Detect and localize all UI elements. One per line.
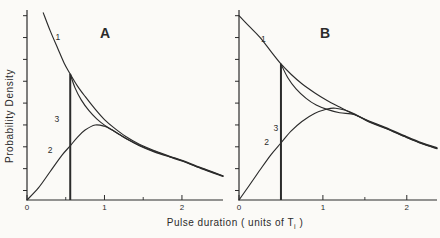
- curve-1-line: [239, 16, 437, 148]
- curve-2-label: 2: [264, 137, 269, 147]
- x-tick-label: 0: [237, 203, 242, 212]
- curve-3-label: 3: [54, 114, 59, 124]
- x-axis-title-text: Pulse duration ( units of T: [167, 217, 294, 228]
- axes-lines: [239, 10, 437, 200]
- x-tick-label: 1: [102, 203, 107, 212]
- x-axis-title: Pulse duration ( units of Ti ): [130, 217, 340, 233]
- x-axis-title-close: ): [296, 217, 303, 228]
- panel-B: 012123B: [235, 10, 437, 212]
- x-tick-label: 2: [180, 203, 185, 212]
- figure: 012123A 012123B Pulse duration ( units o…: [0, 0, 440, 238]
- panel-letter-A: A: [100, 25, 111, 41]
- dual-panel-line-chart: 012123A 012123B: [0, 0, 440, 238]
- curve-1-label: 1: [56, 32, 61, 42]
- curve-2-line: [239, 108, 437, 200]
- y-axis-title: Probability Density: [4, 46, 18, 186]
- curve-1-label: 1: [261, 34, 266, 44]
- x-tick-label: 1: [321, 203, 326, 212]
- curve-3-line: [281, 64, 437, 149]
- panel-letter-B: B: [320, 25, 331, 41]
- x-tick-label: 0: [25, 203, 30, 212]
- curve-3-label: 3: [274, 123, 279, 133]
- panel-A: 012123A: [23, 10, 223, 212]
- curve-2-label: 2: [48, 145, 53, 155]
- x-tick-label: 2: [405, 203, 410, 212]
